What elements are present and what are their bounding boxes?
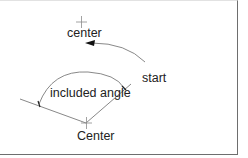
left-radius-line	[20, 99, 86, 123]
diagram-canvas: center start included angle Center	[0, 0, 248, 158]
included-angle-label: included angle	[50, 86, 131, 100]
bottom-center-label: Center	[77, 129, 115, 143]
start-arc-arrow	[92, 43, 145, 62]
top-center-label: center	[67, 26, 102, 40]
arrowhead-icon	[85, 40, 95, 46]
start-label: start	[142, 71, 167, 85]
